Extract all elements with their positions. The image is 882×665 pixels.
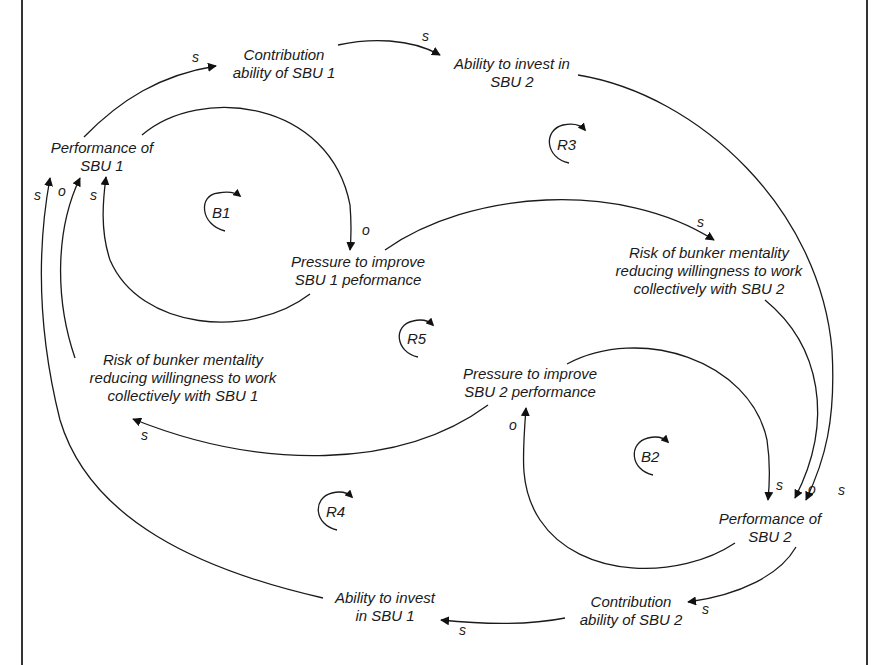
link-perf1-pressure1 (142, 107, 351, 250)
polarity-label: s (141, 427, 148, 443)
node-text-line: Contribution (591, 593, 672, 610)
node-text-line: ability of SBU 1 (233, 64, 336, 81)
link-perf1-contrib1 (84, 66, 216, 137)
polarity-label: s (459, 622, 466, 638)
loop-marker-r3: R3 (549, 124, 585, 163)
node-invest-sbu1: Ability to invest in SBU 1 (334, 589, 436, 624)
node-text-line: reducing willingness to work (90, 369, 278, 386)
polarity-label: o (58, 183, 66, 199)
polarity-label: s (838, 482, 845, 498)
node-text-line: Pressure to improve (463, 365, 597, 382)
loop-marker-b2: B2 (634, 437, 668, 475)
node-bunker-sbu2: Risk of bunker mentality reducing willin… (616, 244, 804, 297)
node-text-line: collectively with SBU 2 (634, 280, 786, 297)
node-text-line: Ability to invest in (453, 55, 570, 72)
node-text-line: Ability to invest (334, 589, 436, 606)
link-pressure2-perf2 (567, 348, 769, 500)
loop-marker-r4: R4 (318, 492, 352, 530)
link-pressure2-bunker1 (133, 405, 488, 456)
loop-label-b2: B2 (641, 448, 660, 465)
node-contribution-sbu2: Contribution ability of SBU 2 (580, 593, 683, 628)
polarity-label: o (362, 222, 370, 238)
polarity-label: s (702, 601, 709, 617)
loop-marker-b1: B1 (204, 192, 240, 231)
link-perf2-contrib2 (688, 547, 796, 602)
polarity-label: s (776, 477, 783, 493)
node-pressure-sbu2: Pressure to improve SBU 2 performance (463, 365, 597, 400)
polarity-label: s (90, 187, 97, 203)
loop-label-b1: B1 (212, 204, 230, 221)
loop-label-r4: R4 (326, 503, 345, 520)
node-invest-sbu2: Ability to invest in SBU 2 (453, 55, 570, 90)
link-bunker1-perf1 (61, 178, 80, 358)
node-text-line: collectively with SBU 1 (108, 387, 259, 404)
polarity-label: s (192, 49, 199, 65)
loop-label-r3: R3 (557, 136, 577, 153)
node-text-line: in SBU 1 (355, 607, 414, 624)
node-text-line: SBU 1 peformance (295, 271, 422, 288)
node-text-line: SBU 2 performance (464, 383, 596, 400)
polarity-label: o (509, 417, 517, 433)
link-perf2-pressure2 (523, 408, 735, 568)
node-text-line: Performance of (51, 139, 155, 156)
node-text-line: Risk of bunker mentality (629, 244, 791, 261)
node-text-line: SBU 2 (490, 73, 534, 90)
causal-loop-diagram: B1 R3 R5 B2 R4 Performance of SBU 1 Cont… (0, 0, 882, 665)
node-bunker-sbu1: Risk of bunker mentality reducing willin… (90, 351, 278, 404)
node-performance-sbu2: Performance of SBU 2 (719, 510, 823, 545)
link-pressure1-bunker2 (385, 200, 714, 250)
node-performance-sbu1: Performance of SBU 1 (51, 139, 155, 174)
node-text-line: Risk of bunker mentality (103, 351, 265, 368)
node-text-line: SBU 1 (80, 157, 123, 174)
node-text-line: reducing willingness to work (616, 262, 804, 279)
node-pressure-sbu1: Pressure to improve SBU 1 peformance (291, 253, 425, 288)
node-text-line: SBU 2 (748, 528, 792, 545)
node-contribution-sbu1: Contribution ability of SBU 1 (233, 46, 336, 81)
polarity-label: s (697, 214, 704, 230)
polarity-label: o (808, 481, 816, 497)
polarity-label: s (34, 187, 41, 203)
loop-label-r5: R5 (407, 330, 427, 347)
node-text-line: Contribution (244, 46, 325, 63)
node-text-line: Pressure to improve (291, 253, 425, 270)
polarity-label: s (422, 28, 429, 44)
link-bunker2-perf2 (765, 300, 818, 498)
loop-marker-r5: R5 (399, 320, 433, 357)
node-text-line: ability of SBU 2 (580, 611, 683, 628)
node-text-line: Performance of (719, 510, 823, 527)
